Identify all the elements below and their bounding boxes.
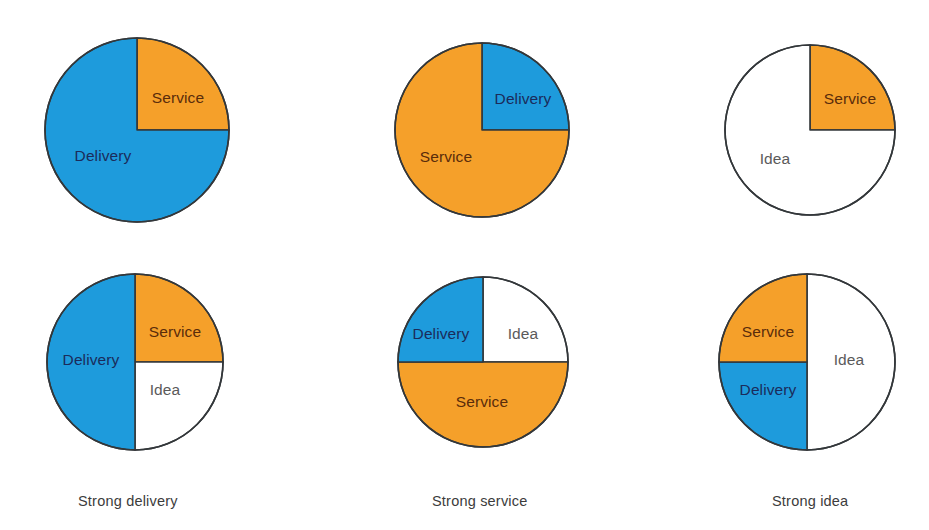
pie-top-left: ServiceDelivery	[31, 24, 243, 236]
pie-bottom-middle-svg: IdeaServiceDelivery	[384, 263, 582, 461]
pie-slice-delivery[interactable]	[398, 277, 483, 362]
slice-label-idea: Idea	[508, 325, 539, 342]
slice-label-delivery: Delivery	[63, 351, 120, 368]
pie-top-right: ServiceIdea	[711, 31, 909, 229]
slice-label-delivery: Delivery	[495, 90, 552, 107]
slice-label-service: Service	[456, 393, 508, 410]
caption-strong-delivery: Strong delivery	[78, 493, 178, 509]
pie-slice-idea[interactable]	[135, 362, 223, 450]
pie-top-middle-svg: DeliveryService	[381, 29, 583, 231]
pie-bottom-left: ServiceIdeaDelivery	[33, 260, 237, 464]
pie-slice-idea[interactable]	[483, 277, 568, 362]
pie-slice-delivery[interactable]	[482, 43, 569, 130]
pie-chart-figure: ServiceDeliveryDeliveryServiceServiceIde…	[0, 0, 929, 530]
pie-top-middle: DeliveryService	[381, 29, 583, 231]
pie-slice-delivery[interactable]	[719, 362, 807, 450]
slice-label-idea: Idea	[834, 351, 865, 368]
pie-slice-service[interactable]	[719, 274, 807, 362]
caption-strong-idea: Strong idea	[772, 493, 848, 509]
pie-slice-service[interactable]	[137, 38, 229, 130]
slice-label-service: Service	[420, 148, 472, 165]
pie-bottom-right-svg: IdeaDeliveryService	[705, 260, 909, 464]
slice-label-idea: Idea	[760, 150, 791, 167]
slice-label-service: Service	[824, 90, 876, 107]
slice-label-delivery: Delivery	[413, 325, 470, 342]
slice-label-service: Service	[742, 323, 794, 340]
slice-label-idea: Idea	[150, 381, 181, 398]
slice-label-service: Service	[152, 89, 204, 106]
pie-top-right-svg: ServiceIdea	[711, 31, 909, 229]
pie-slice-service[interactable]	[135, 274, 223, 362]
pie-slice-service[interactable]	[810, 45, 895, 130]
slice-label-delivery: Delivery	[740, 381, 797, 398]
caption-strong-service: Strong service	[432, 493, 527, 509]
slice-label-delivery: Delivery	[75, 147, 132, 164]
pie-bottom-middle: IdeaServiceDelivery	[384, 263, 582, 461]
pie-top-left-svg: ServiceDelivery	[31, 24, 243, 236]
slice-label-service: Service	[149, 323, 201, 340]
pie-bottom-left-svg: ServiceIdeaDelivery	[33, 260, 237, 464]
pie-bottom-right: IdeaDeliveryService	[705, 260, 909, 464]
